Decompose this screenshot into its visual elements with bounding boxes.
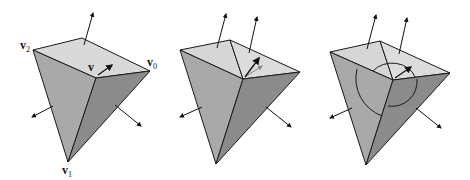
label-v2: v2 [20, 38, 30, 54]
panel-2 [180, 14, 300, 164]
panel-3 [330, 15, 450, 165]
label-v: v [88, 60, 94, 74]
mesh-vertex-normal-diagram: v2 v0 v1 v [0, 0, 470, 180]
panel-1: v2 v0 v1 v [20, 13, 157, 179]
left-face-normal-arrow [32, 106, 53, 117]
right-face-normal-arrow [266, 107, 291, 127]
label-v0: v0 [147, 55, 157, 71]
left-face-normal-arrow [330, 108, 352, 118]
top-face-normal-arrow [84, 13, 93, 45]
right-face-normal-arrow [416, 108, 441, 128]
top-face-b-normal-arrow [399, 18, 407, 54]
right-face-normal-arrow [115, 105, 141, 126]
top-face-b-normal-arrow [249, 17, 257, 53]
label-v1: v1 [62, 163, 72, 179]
left-face-normal-arrow [180, 107, 202, 117]
